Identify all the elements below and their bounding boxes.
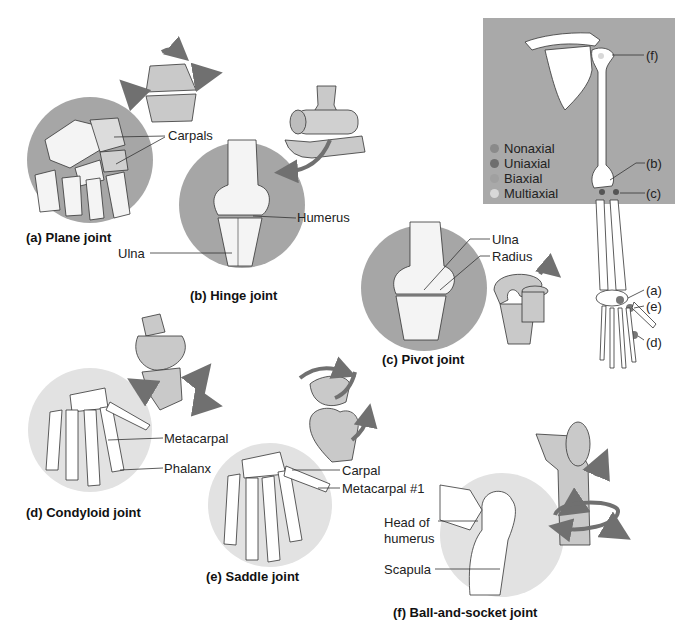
label-head-of: Head of bbox=[384, 515, 430, 530]
label-metacarpal: Metacarpal bbox=[164, 431, 228, 446]
marker-a: (a) bbox=[646, 283, 662, 298]
label-ulna-pivot: Ulna bbox=[492, 232, 519, 247]
caption-condyloid-joint: (d) Condyloid joint bbox=[26, 505, 141, 520]
label-humerus-f: humerus bbox=[384, 531, 435, 546]
label-ulna-hinge: Ulna bbox=[118, 246, 145, 261]
legend-item-multiaxial: Multiaxial bbox=[490, 186, 558, 201]
legend-label: Uniaxial bbox=[504, 156, 550, 171]
marker-e: (e) bbox=[646, 299, 662, 314]
legend-item-biaxial: Biaxial bbox=[490, 171, 558, 186]
nonaxial-swatch-icon bbox=[490, 144, 499, 153]
label-radius: Radius bbox=[492, 249, 532, 264]
label-phalanx: Phalanx bbox=[164, 461, 211, 476]
label-scapula: Scapula bbox=[384, 562, 431, 577]
caption-plane-joint: (a) Plane joint bbox=[26, 230, 111, 245]
joint-type-legend: Nonaxial Uniaxial Biaxial Multiaxial bbox=[490, 141, 558, 201]
diagram-graphics bbox=[0, 0, 694, 640]
caption-hinge-joint: (b) Hinge joint bbox=[190, 288, 277, 303]
legend-label: Nonaxial bbox=[504, 141, 555, 156]
caption-pivot-joint: (c) Pivot joint bbox=[382, 352, 464, 367]
label-carpal: Carpal bbox=[342, 463, 380, 478]
caption-ball-and-socket-joint: (f) Ball-and-socket joint bbox=[393, 605, 537, 620]
legend-item-uniaxial: Uniaxial bbox=[490, 156, 558, 171]
ball-and-socket-joint-illustration bbox=[435, 422, 618, 597]
marker-d: (d) bbox=[646, 335, 662, 350]
legend-label: Multiaxial bbox=[504, 186, 558, 201]
legend-label: Biaxial bbox=[504, 171, 542, 186]
label-humerus: Humerus bbox=[297, 210, 350, 225]
pivot-joint-illustration bbox=[361, 222, 552, 351]
multiaxial-swatch-icon bbox=[490, 189, 499, 198]
legend-item-nonaxial: Nonaxial bbox=[490, 141, 558, 156]
label-metacarpal-1: Metacarpal #1 bbox=[342, 481, 424, 496]
biaxial-swatch-icon bbox=[490, 174, 499, 183]
caption-saddle-joint: (e) Saddle joint bbox=[206, 569, 299, 584]
marker-b: (b) bbox=[646, 156, 662, 171]
marker-f: (f) bbox=[646, 48, 658, 63]
uniaxial-swatch-icon bbox=[490, 159, 499, 168]
label-carpals: Carpals bbox=[168, 128, 213, 143]
marker-c: (c) bbox=[646, 186, 661, 201]
